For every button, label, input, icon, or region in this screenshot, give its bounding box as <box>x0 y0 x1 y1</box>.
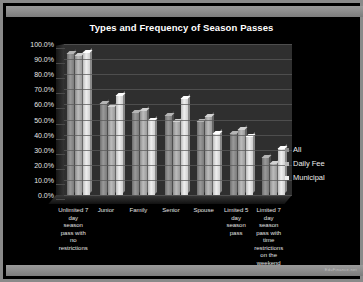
y-axis-tick-label: 40.0% <box>34 131 54 138</box>
gridline <box>64 59 292 60</box>
x-axis-category-label: Limited 5 day season pass <box>221 207 252 237</box>
watermark-text: EduFinance.net <box>325 267 357 272</box>
bar-all <box>197 121 204 195</box>
y-axis-tick-label: 60.0% <box>34 101 54 108</box>
gridline <box>64 165 292 166</box>
legend-swatch-icon <box>285 176 289 180</box>
y-axis-tick-label: 0.0% <box>38 192 54 199</box>
x-axis-category-label: Spouse <box>188 207 219 215</box>
y-axis-tick-labels: 0.0%10.0%20.0%30.0%40.0%50.0%60.0%70.0%8… <box>10 39 54 199</box>
y-axis-tick-label: 30.0% <box>34 146 54 153</box>
legend-item[interactable]: Municipal <box>285 173 353 182</box>
gridline <box>64 89 292 90</box>
gridline-side <box>56 124 65 125</box>
y-axis-tick-label: 90.0% <box>34 56 54 63</box>
legend-label: Daily Fee <box>293 159 325 168</box>
legend-label: Municipal <box>293 173 325 182</box>
gridline <box>64 44 292 45</box>
bar-all <box>132 112 139 195</box>
slide-bottom-band: EduFinance.net <box>6 265 363 276</box>
gridline-side <box>56 199 65 200</box>
x-axis-category-label: Unlimited 7 day season pass with no rest… <box>58 207 89 252</box>
x-axis-category-label: Limited 7 day season pass with time rest… <box>253 207 284 267</box>
gridline-side <box>56 108 65 109</box>
bar-municipal <box>83 52 90 195</box>
y-axis-tick-label: 70.0% <box>34 86 54 93</box>
bar-daily-fee <box>238 129 245 195</box>
gridline <box>64 135 292 136</box>
gridline-side <box>56 139 65 140</box>
gridline <box>64 74 292 75</box>
gridline-side <box>56 48 65 49</box>
chart-legend: AllDaily FeeMunicipal <box>285 145 353 187</box>
gridline-side <box>56 93 65 94</box>
gridline-side <box>56 78 65 79</box>
plot-floor <box>48 195 292 204</box>
legend-item[interactable]: All <box>285 145 353 154</box>
plot-side-wall <box>56 44 64 197</box>
chart-plot-3d <box>56 44 292 204</box>
bar-daily-fee <box>75 55 82 195</box>
bar-daily-fee <box>173 121 180 195</box>
bar-municipal <box>148 120 155 196</box>
y-axis-tick-label: 10.0% <box>34 176 54 183</box>
gridline-side <box>56 154 65 155</box>
bar-daily-fee <box>140 110 147 195</box>
gridline <box>64 150 292 151</box>
bar-all <box>262 157 269 195</box>
y-axis-tick-label: 100.0% <box>30 41 54 48</box>
bar-all <box>165 115 172 195</box>
chart-canvas: Types and Frequency of Season Passes 0.0… <box>6 17 357 265</box>
gridline-side <box>56 169 65 170</box>
chart-title: Types and Frequency of Season Passes <box>6 22 357 33</box>
gridline-side <box>56 63 65 64</box>
legend-item[interactable]: Daily Fee <box>285 159 353 168</box>
y-axis-tick-label: 50.0% <box>34 116 54 123</box>
legend-label: All <box>293 145 301 154</box>
legend-swatch-icon <box>285 148 289 152</box>
gridline <box>64 195 292 196</box>
y-axis-tick-label: 80.0% <box>34 71 54 78</box>
gridline-side <box>56 184 65 185</box>
x-axis-category-label: Family <box>123 207 154 215</box>
slide-top-band <box>6 6 363 17</box>
x-axis-category-label: Junior <box>91 207 122 215</box>
legend-swatch-icon <box>285 162 289 166</box>
gridline <box>64 180 292 181</box>
x-axis-category-label: Senior <box>156 207 187 215</box>
gridline <box>64 120 292 121</box>
slide: Types and Frequency of Season Passes 0.0… <box>0 0 363 282</box>
y-axis-tick-label: 20.0% <box>34 161 54 168</box>
gridline <box>64 104 292 105</box>
bar-daily-fee <box>205 116 212 195</box>
